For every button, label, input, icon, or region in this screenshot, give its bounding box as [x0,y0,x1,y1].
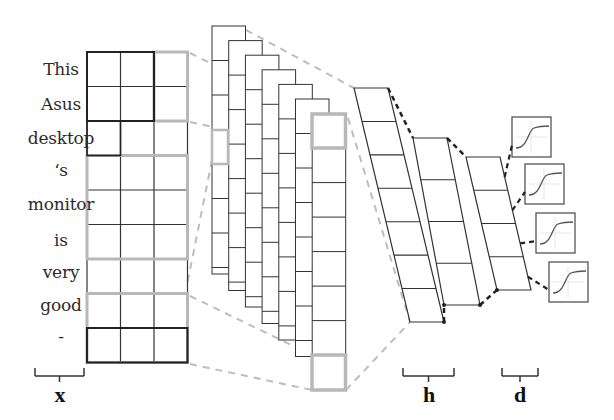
feature-map-6 [312,114,346,390]
cnn-diagram: This Asus desktop ‘s monitor is very goo… [0,0,614,420]
dark-dashed-connector [480,290,497,305]
node-dot [495,288,499,292]
dark-dashed-connector [505,145,512,177]
node-dot [442,320,446,324]
dark-dashed-connector [520,241,536,243]
word-0: This [21,59,101,79]
sigmoid-box-2 [520,213,575,253]
layer-brackets [35,368,538,382]
feature-map-stack [212,26,346,390]
dense-layer-2 [466,157,531,290]
word-2: desktop [21,128,101,148]
bracket-h [403,368,454,382]
label-x: x [45,384,75,406]
sigmoid-box-3 [528,262,588,302]
matrix-bg [87,52,188,363]
word-1: Asus [21,94,101,114]
word-5: is [21,230,101,250]
dense-layers [354,88,531,322]
label-d: d [505,384,535,406]
bracket-x [35,368,84,382]
word-7: good [21,295,101,315]
word-8: - [21,326,101,346]
node-dot [478,303,482,307]
word-4: monitor [21,194,101,214]
sigmoid-box-1 [512,164,564,210]
word-6: very [21,262,101,282]
dark-dashed-connector [512,192,525,210]
node-dot [442,303,446,307]
word-3: ‘s [21,160,101,180]
dashed-connector [346,322,410,390]
label-h: h [414,384,444,406]
bracket-d [502,368,538,382]
input-embedding-matrix [87,52,188,363]
dashed-connector [190,364,312,390]
dashed-connector [345,88,354,116]
